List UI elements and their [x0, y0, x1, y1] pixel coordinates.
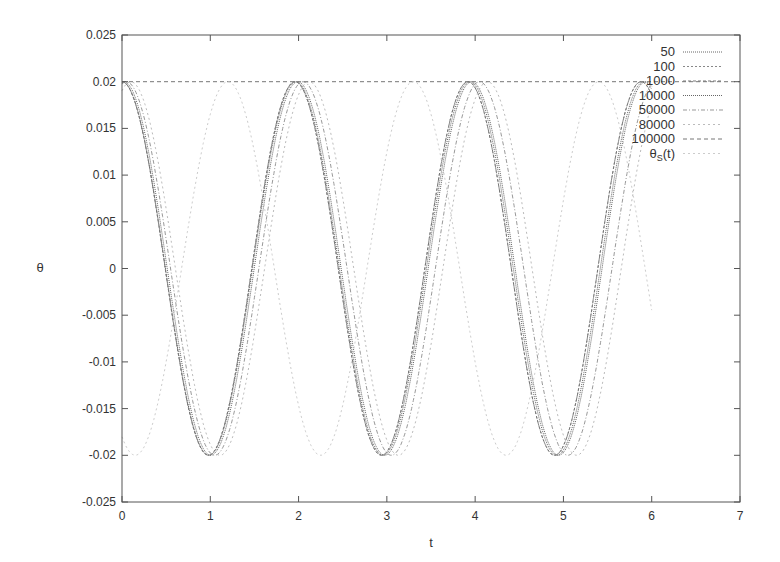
series-line-2	[122, 82, 652, 456]
legend-label: 1000	[646, 73, 675, 88]
series-line-1	[122, 82, 652, 456]
x-tick-label: 3	[384, 509, 391, 523]
y-tick-label: 0.015	[86, 121, 116, 135]
y-tick-label: 0.025	[86, 28, 116, 42]
x-tick-label: 1	[207, 509, 214, 523]
x-tick-label: 7	[737, 509, 744, 523]
legend-label: θS(t)	[649, 146, 675, 163]
x-tick-label: 6	[648, 509, 655, 523]
legend-label: 100	[653, 59, 675, 74]
y-axis-label: θ	[36, 260, 43, 275]
x-tick-label: 4	[472, 509, 479, 523]
legend: 501001000100005000080000100000θS(t)	[632, 44, 723, 163]
legend-label: 100000	[632, 131, 675, 146]
legend-label: 50000	[639, 102, 675, 117]
legend-label: 10000	[639, 88, 675, 103]
series-line-5	[122, 82, 652, 456]
y-tick-label: -0.02	[89, 448, 117, 462]
legend-label: 50	[661, 44, 675, 59]
y-tick-label: 0.005	[86, 215, 116, 229]
y-tick-label: 0.02	[93, 75, 117, 89]
series-line-7	[122, 82, 652, 456]
plot-area: 01234567 -0.025-0.02-0.015-0.01-0.00500.…	[0, 0, 780, 562]
x-tick-label: 2	[295, 509, 302, 523]
y-tick-label: -0.005	[82, 308, 116, 322]
series-line-4	[122, 82, 652, 455]
x-tick-label: 5	[560, 509, 567, 523]
x-axis-label: t	[429, 535, 433, 550]
y-tick-label: -0.01	[89, 355, 117, 369]
legend-label: 80000	[639, 117, 675, 132]
series-line-3	[122, 82, 652, 456]
x-tick-label: 0	[119, 509, 126, 523]
series-line-0	[122, 82, 652, 456]
y-tick-label: -0.025	[82, 495, 116, 509]
y-tick-label: 0	[109, 262, 116, 276]
chart: 01234567 -0.025-0.02-0.015-0.01-0.00500.…	[0, 0, 780, 562]
y-tick-label: 0.01	[93, 168, 117, 182]
y-tick-label: -0.015	[82, 402, 116, 416]
